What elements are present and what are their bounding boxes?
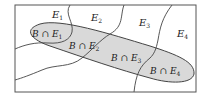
label-b-cap-e2: B ∩ E2 [68, 41, 99, 52]
label-e1: E1 [51, 9, 63, 21]
label-b-cap-e4: B ∩ E4 [149, 66, 180, 77]
label-b-cap-e1: B ∩ E1 [31, 29, 62, 40]
label-e2: E2 [90, 12, 102, 24]
label-b-cap-e3: B ∩ E3 [110, 53, 141, 64]
label-e4: E4 [176, 28, 188, 40]
partition-diagram: E1 E2 E3 E4 B ∩ E1 B ∩ E2 B ∩ E3 B ∩ E4 [0, 0, 210, 99]
label-e3: E3 [138, 17, 150, 29]
